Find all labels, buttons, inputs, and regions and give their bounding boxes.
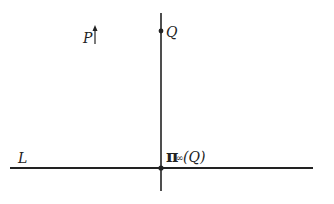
label-L: L <box>17 150 27 166</box>
label-Q: Q <box>166 24 178 40</box>
point-Q <box>159 29 164 34</box>
arrow-up-icon <box>93 25 98 31</box>
intersection-point <box>158 165 163 170</box>
projection-diagram: L P Q π ∞ (Q) <box>0 0 334 204</box>
label-projection-arg: (Q) <box>183 149 205 165</box>
label-P: P <box>82 30 93 46</box>
